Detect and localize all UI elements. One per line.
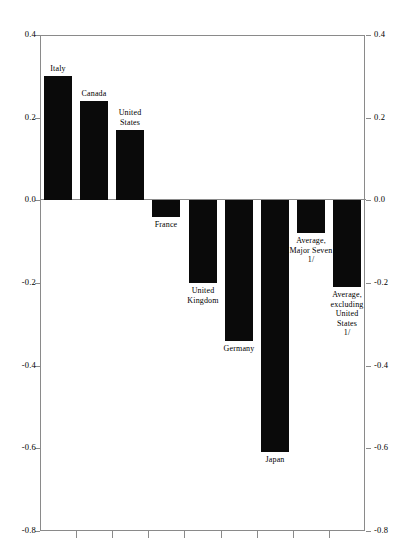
bar-average-excluding-united-states xyxy=(333,200,361,287)
y-tick-mark-right xyxy=(366,35,371,36)
x-tick-mark xyxy=(76,531,77,538)
y-tick-mark-right xyxy=(366,283,371,284)
bar-label-united-states: United States xyxy=(94,108,166,127)
y-tick-label-left: -0.8 xyxy=(22,526,36,535)
y-tick-label-right: -0.4 xyxy=(374,361,388,370)
x-tick-mark xyxy=(329,531,330,538)
y-tick-label-left: -0.2 xyxy=(22,278,36,287)
x-tick-mark xyxy=(184,531,185,538)
bar-label-italy: Italy xyxy=(22,64,94,74)
y-tick-label-right: 0.2 xyxy=(374,113,385,122)
bar-average-major-seven xyxy=(297,200,325,233)
x-tick-mark xyxy=(221,531,222,538)
y-tick-label-left: 0.2 xyxy=(25,113,36,122)
y-tick-label-right: -0.8 xyxy=(374,526,388,535)
y-tick-label-left: 0.0 xyxy=(25,195,36,204)
x-tick-mark xyxy=(112,531,113,538)
y-tick-mark-right xyxy=(366,448,371,449)
y-tick-label-left: -0.4 xyxy=(22,361,36,370)
bar-label-canada: Canada xyxy=(58,89,130,99)
x-tick-mark xyxy=(148,531,149,538)
bar-label-japan: Japan xyxy=(239,455,311,465)
y-tick-label-right: 0.0 xyxy=(374,195,385,204)
bar-label-average-excluding-united-states: Average, excluding United States 1/ xyxy=(311,290,383,338)
y-tick-label-right: -0.6 xyxy=(374,443,388,452)
y-tick-mark-right xyxy=(366,531,371,532)
x-tick-mark xyxy=(293,531,294,538)
bar-united-kingdom xyxy=(189,200,217,283)
bar-france xyxy=(152,200,180,217)
y-tick-label-left: -0.6 xyxy=(22,443,36,452)
bar-united-states xyxy=(116,130,144,200)
bar-germany xyxy=(225,200,253,341)
x-tick-mark xyxy=(257,531,258,538)
y-tick-label-right: -0.2 xyxy=(374,278,388,287)
y-tick-mark-right xyxy=(366,366,371,367)
y-tick-mark-right xyxy=(366,118,371,119)
y-tick-mark-right xyxy=(366,200,371,201)
y-tick-label-right: 0.4 xyxy=(374,30,385,39)
bar-chart: 0.40.20.0-0.2-0.4-0.6-0.8 0.40.20.0-0.2-… xyxy=(0,0,408,560)
y-tick-label-left: 0.4 xyxy=(25,30,36,39)
